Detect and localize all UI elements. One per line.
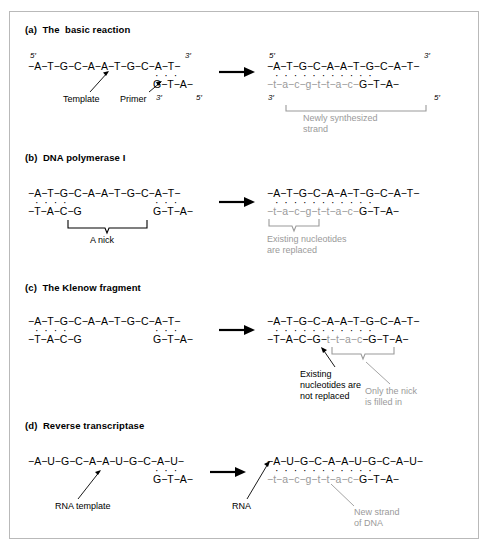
panel-a-right-bottom-3prime: 3′ [268,93,274,102]
panel-c-old-bases-left: −T−A−C−G− [267,333,327,345]
panel-a-template-label: Template [63,94,100,105]
panel-a-primer-label: Primer [120,94,147,105]
panel-c-right-bottom-strand: −T−A−C−G−t−t−a−c−G−T−A− [267,333,408,345]
panel-d-rna-template-label: RNA template [55,501,111,512]
panel-d-title: (d) Reverse transcriptase [25,420,144,431]
figure-frame: (a) The basic reaction 5′ −A−T−G−C−A−A−T… [9,11,479,539]
panel-c-not-replaced-label: Existingnucleotides arenot replaced [300,369,361,402]
panel-a-right-bottom-5prime: 5′ [434,93,440,102]
panel-a-newly-synthesized-label: Newly synthesizedstrand [303,113,378,135]
panel-b-title: (b) DNA polymerase I [25,152,125,163]
panel-a-left-bottom-5prime: 5′ [196,93,202,102]
panel-a-right-top-5prime: 5′ [269,51,275,60]
panel-d-primer-bases: G−T−A− [359,473,399,485]
panel-b-primer-bases: G−T−A− [359,205,399,217]
panel-c-nick-filled-label: Only the nickis filled in [365,386,417,408]
panel-b-replaced-label: Existing nucleotidesare replaced [267,234,347,256]
panel-a-title: (a) The basic reaction [25,24,130,35]
panel-d-new-dna-label: New strandof DNA [354,507,400,529]
panel-d-right-bottom-strand: −t−a−c−g−t−t−a−c−G−T−A− [267,473,399,485]
panel-b-right-bottom-strand: −t−a−c−g−t−t−a−c−G−T−A− [267,205,399,217]
panel-a-right-bottom-strand: −t−a−c−g−t−t−a−c−G−T−A− [267,78,399,90]
panel-c-title: (c) The Klenow fragment [25,282,141,293]
panel-a-primer-bases: G−T−A− [359,78,399,90]
panel-d-new-bases: −t−a−c−g−t−t−a−c− [267,473,359,485]
panel-a-left-top-3prime: 3′ [185,51,191,60]
panel-c-left-bottom-left: −T−A−C−G [28,333,82,345]
panel-d-rna-label: RNA [232,501,251,512]
panel-b-new-bases: −t−a−c−g−t−t−a−c− [267,205,359,217]
panel-a-right-top-3prime: 3′ [424,51,430,60]
panel-a-new-bases: −t−a−c−g−t−t−a−c− [267,78,359,90]
panel-a-left-bottom-3prime: 3′ [156,93,162,102]
panel-a-left-top-5prime: 5′ [30,51,36,60]
panel-a-left-primer-strand: G−T−A− [153,78,193,90]
panel-b-left-bottom-left: −T−A−C−G [28,205,82,217]
panel-b-left-bottom-right: G−T−A− [153,205,193,217]
panel-c-left-bottom-right: G−T−A− [153,333,193,345]
panel-d-left-primer-strand: G−T−A− [153,473,193,485]
panel-b-nick-label: A nick [90,235,114,246]
panel-c-old-bases-right: −G−T−A− [362,333,408,345]
panel-c-new-bases: t−t−a−c [327,333,362,345]
